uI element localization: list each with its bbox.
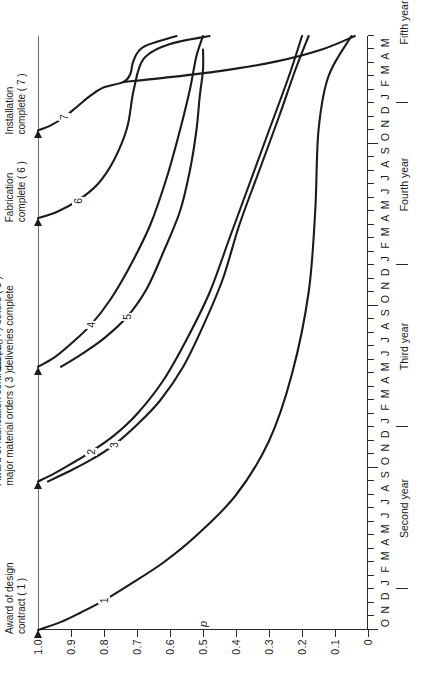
time-axis-tick xyxy=(368,413,374,414)
time-axis-tick xyxy=(368,386,374,387)
time-axis-tick xyxy=(368,251,374,252)
month-label: N xyxy=(379,606,391,614)
month-label: J xyxy=(379,351,391,356)
month-label: A xyxy=(379,539,391,546)
time-axis-tick xyxy=(368,211,374,212)
time-axis-tick xyxy=(368,319,374,320)
month-label: J xyxy=(379,175,391,180)
month-label: F xyxy=(379,404,391,410)
month-label: J xyxy=(379,337,391,342)
time-axis-tick xyxy=(368,62,374,63)
milestone-caption: Fabrication complete ( 6 ) xyxy=(4,161,27,222)
curve-label-4: 4 xyxy=(85,321,97,329)
time-axis-tick xyxy=(368,238,374,239)
time-axis-tick xyxy=(368,535,374,536)
month-label: J xyxy=(379,94,391,99)
month-label: O xyxy=(379,619,391,627)
p-axis-tick xyxy=(236,630,237,637)
p-axis-tick xyxy=(335,630,336,637)
month-label: N xyxy=(379,444,391,452)
milestone-caption: Award of design contract ( 1 ) xyxy=(4,562,27,634)
month-label: S xyxy=(379,471,391,478)
month-label: M xyxy=(379,65,391,74)
time-axis-tick xyxy=(368,184,374,185)
p-axis-tick-label: 0.5 xyxy=(197,639,209,655)
time-axis-tick xyxy=(368,157,374,158)
p-axis-tick-label: 0.7 xyxy=(131,639,143,655)
curve-1 xyxy=(38,36,352,630)
p-axis-tick xyxy=(269,630,270,637)
month-label: S xyxy=(379,309,391,316)
curve-label-3: 3 xyxy=(108,441,120,449)
time-axis-tick xyxy=(368,521,374,522)
milestone-caption: Installation complete ( 7 ) xyxy=(4,73,27,134)
time-axis-tick xyxy=(368,89,374,90)
month-label: A xyxy=(379,215,391,222)
time-axis-tick xyxy=(368,265,374,266)
year-separator-tick xyxy=(396,589,408,590)
time-axis-tick xyxy=(368,76,374,77)
month-label: F xyxy=(379,242,391,248)
time-axis-tick xyxy=(368,494,374,495)
time-axis-tick xyxy=(368,481,374,482)
time-axis-tick xyxy=(368,548,374,549)
time-axis-tick xyxy=(368,454,374,455)
milestone-arrow xyxy=(34,630,42,638)
month-label: J xyxy=(379,256,391,261)
rotated-chart-canvas: 1.00.90.80.70.60.50.40.30.20.10 ONDJFMAM… xyxy=(0,0,434,682)
time-axis-tick xyxy=(368,332,374,333)
time-axis-tick xyxy=(368,359,374,360)
p-axis-tick-label: 0.4 xyxy=(230,639,242,655)
year-separator-tick xyxy=(396,427,408,428)
year-group-label: Third year xyxy=(398,323,410,370)
p-axis-title: p xyxy=(197,621,209,627)
time-axis-tick xyxy=(368,616,374,617)
curve-3 xyxy=(48,36,309,482)
time-axis-tick xyxy=(368,278,374,279)
year-separator-tick xyxy=(396,265,408,266)
figure-container: 1.00.90.80.70.60.50.40.30.20.10 ONDJFMAM… xyxy=(0,0,434,682)
month-label: O xyxy=(379,295,391,303)
p-axis-tick-label: 0.2 xyxy=(296,639,308,655)
p-axis-tick-label: 1.0 xyxy=(32,639,44,655)
month-label: S xyxy=(379,147,391,154)
month-label: O xyxy=(379,133,391,141)
month-label: J xyxy=(379,580,391,585)
month-label: F xyxy=(379,80,391,86)
month-label: A xyxy=(379,53,391,60)
milestone-caption: Steel ( 4 ) others ( 5 ) deliveries comp… xyxy=(0,276,15,370)
month-label: M xyxy=(379,524,391,533)
month-label: M xyxy=(379,551,391,560)
month-label: N xyxy=(379,282,391,290)
month-label: M xyxy=(379,362,391,371)
time-axis-tick xyxy=(368,440,374,441)
month-label: M xyxy=(379,389,391,398)
year-separator-tick xyxy=(396,103,408,104)
time-axis-tick xyxy=(368,589,374,590)
curve-paths xyxy=(38,36,368,630)
time-axis-tick xyxy=(368,346,374,347)
p-axis-tick-label: 0.3 xyxy=(263,639,275,655)
curve-label-7: 7 xyxy=(58,113,70,121)
p-axis-tick-label: 0 xyxy=(362,639,374,645)
curve-label-5: 5 xyxy=(121,313,133,321)
time-axis-tick xyxy=(368,170,374,171)
time-axis-tick xyxy=(368,575,374,576)
month-label: M xyxy=(379,227,391,236)
month-label: M xyxy=(379,38,391,47)
month-label: N xyxy=(379,120,391,128)
time-axis-tick xyxy=(368,629,378,630)
curve-6 xyxy=(38,36,210,218)
time-axis-tick xyxy=(368,49,374,50)
time-axis-tick xyxy=(368,427,374,428)
p-axis-tick xyxy=(71,630,72,637)
month-label: J xyxy=(379,189,391,194)
curve-label-2: 2 xyxy=(85,448,97,456)
p-axis-tick xyxy=(368,630,369,637)
time-axis-tick xyxy=(368,305,378,306)
month-label: D xyxy=(379,430,391,438)
month-label: J xyxy=(379,499,391,504)
time-axis-tick xyxy=(368,130,374,131)
month-label: D xyxy=(379,592,391,600)
plot-area: 1.00.90.80.70.60.50.40.30.20.10 ONDJFMAM… xyxy=(38,36,368,630)
